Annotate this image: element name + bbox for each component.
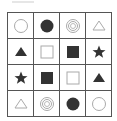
- double-circle-icon: [65, 18, 81, 34]
- grid-cell-r3-c1[interactable]: [8, 65, 34, 91]
- grid-cell-r2-c4[interactable]: [86, 39, 112, 65]
- grid-cell-r1-c2[interactable]: [34, 13, 60, 39]
- symbol-grid: [7, 12, 112, 117]
- circle-filled-icon: [65, 96, 81, 112]
- double-circle-icon: [39, 96, 55, 112]
- header-mark: [12, 1, 34, 3]
- grid-cell-r4-c3[interactable]: [60, 91, 86, 117]
- square-outline-icon: [39, 44, 55, 60]
- circle-filled-icon: [39, 18, 55, 34]
- grid-cell-r2-c3[interactable]: [60, 39, 86, 65]
- grid-cell-r4-c4[interactable]: [86, 91, 112, 117]
- grid-cell-r3-c4[interactable]: [86, 65, 112, 91]
- grid-cell-r3-c3[interactable]: [60, 65, 86, 91]
- circle-outline-icon: [13, 18, 29, 34]
- grid-cell-r2-c1[interactable]: [8, 39, 34, 65]
- circle-outline-icon: [91, 96, 107, 112]
- square-filled-icon: [39, 70, 55, 86]
- star-filled-icon: [13, 70, 29, 86]
- grid-cell-r1-c3[interactable]: [60, 13, 86, 39]
- triangle-outline-icon: [91, 18, 107, 34]
- triangle-outline-icon: [13, 96, 29, 112]
- grid-cell-r1-c4[interactable]: [86, 13, 112, 39]
- grid-cell-r2-c2[interactable]: [34, 39, 60, 65]
- grid-cell-r3-c2[interactable]: [34, 65, 60, 91]
- square-filled-icon: [65, 44, 81, 60]
- grid-cell-r4-c2[interactable]: [34, 91, 60, 117]
- triangle-filled-icon: [13, 44, 29, 60]
- star-filled-icon: [91, 44, 107, 60]
- triangle-filled-icon: [91, 70, 107, 86]
- grid-cell-r4-c1[interactable]: [8, 91, 34, 117]
- grid-cell-r1-c1[interactable]: [8, 13, 34, 39]
- square-outline-icon: [65, 70, 81, 86]
